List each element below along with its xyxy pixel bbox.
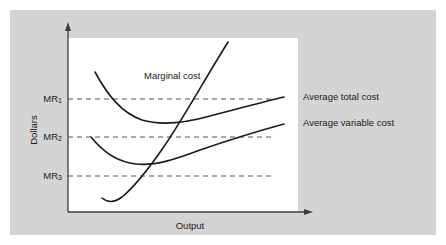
x-axis-arrowhead (304, 209, 313, 215)
x-axis-title: Output (176, 220, 205, 231)
economics-cost-curve-figure: MR1 MR2 MR3 Dollars Output Marginal cost… (0, 0, 446, 245)
y-tick-label-mr3: MR3 (43, 170, 62, 181)
y-tick-label-mr2: MR2 (43, 131, 62, 142)
y-tick-label-mr1: MR1 (43, 93, 62, 104)
y-axis-title: Dollars (28, 115, 39, 145)
chart-svg: MR1 MR2 MR3 Dollars Output Marginal cost… (0, 0, 446, 245)
marginal-cost-label: Marginal cost (144, 70, 201, 81)
plot-area-background (68, 38, 298, 212)
average-variable-cost-label: Average variable cost (303, 117, 395, 128)
y-axis-arrowhead (65, 22, 71, 31)
average-total-cost-label: Average total cost (303, 91, 379, 102)
